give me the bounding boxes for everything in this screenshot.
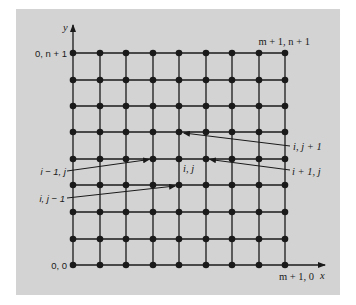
grid-node (203, 236, 210, 243)
grid-node (229, 50, 236, 57)
grid-node (229, 77, 236, 84)
grid-node (282, 209, 289, 216)
arrow-to-i-j-plus-1 (184, 133, 290, 146)
grid-node (176, 129, 183, 136)
grid-node (229, 103, 236, 110)
grid-node (123, 209, 130, 216)
grid-node (176, 77, 183, 84)
grid-node (256, 209, 263, 216)
grid-node (123, 182, 130, 189)
grid-node (256, 103, 263, 110)
grid-node (176, 262, 183, 269)
grid-node (176, 236, 183, 243)
grid-node (97, 156, 104, 163)
grid-node (282, 156, 289, 163)
grid-node (176, 182, 183, 189)
grid-node (282, 77, 289, 84)
grid-node (203, 77, 210, 84)
grid-node (256, 182, 263, 189)
grid-node (70, 182, 77, 189)
grid-node (150, 182, 157, 189)
grid-node (150, 236, 157, 243)
grid-node (282, 262, 289, 269)
grid-node (123, 77, 130, 84)
y-axis-label: y (62, 22, 68, 33)
grid-node (203, 103, 210, 110)
grid-node (123, 262, 130, 269)
grid-node (97, 209, 104, 216)
grid-node (176, 156, 183, 163)
grid-node (97, 262, 104, 269)
grid-node (229, 262, 236, 269)
grid-node (70, 103, 77, 110)
grid-node (97, 77, 104, 84)
grid-node (150, 129, 157, 136)
grid-node (70, 156, 77, 163)
grid-node (97, 50, 104, 57)
grid-node (256, 236, 263, 243)
grid-node (203, 262, 210, 269)
corner-label-top-left: 0, n + 1 (35, 48, 67, 59)
grid-node (150, 50, 157, 57)
x-axis-label: x (319, 270, 325, 281)
grid-node (123, 156, 130, 163)
node-label-left: i − 1, j (40, 166, 66, 177)
grid-node (176, 50, 183, 57)
grid-node (282, 103, 289, 110)
arrow-to-i-plus-1-j (210, 160, 290, 171)
grid-node (70, 50, 77, 57)
grid-node (282, 50, 289, 57)
grid-node (229, 156, 236, 163)
grid-node (123, 236, 130, 243)
grid-node (203, 50, 210, 57)
grid-node (256, 156, 263, 163)
corner-label-top-right: m + 1, n + 1 (258, 36, 310, 47)
grid-node (70, 129, 77, 136)
grid-node (70, 236, 77, 243)
grid-node (150, 209, 157, 216)
grid-node (256, 262, 263, 269)
grid-node (256, 50, 263, 57)
grid-node (229, 129, 236, 136)
grid-node (176, 103, 183, 110)
arrow-to-i-j-minus-1 (67, 186, 175, 198)
grid-node (150, 262, 157, 269)
grid-node (70, 262, 77, 269)
node-label-up: i, j + 1 (293, 141, 322, 152)
grid-node (70, 209, 77, 216)
node-label-down: i, j − 1 (39, 193, 65, 204)
grid-node (123, 50, 130, 57)
grid-node (203, 129, 210, 136)
arrow-to-i-minus-1-j (67, 160, 149, 172)
grid-node (229, 236, 236, 243)
grid-node (97, 129, 104, 136)
grid-node (256, 77, 263, 84)
node-label-right: i + 1, j (292, 166, 321, 177)
grid-node (150, 77, 157, 84)
grid-node (282, 182, 289, 189)
grid-node (150, 156, 157, 163)
node-label-center: i, j (183, 163, 194, 174)
corner-label-bottom-left: 0, 0 (51, 260, 67, 271)
grid-node (203, 156, 210, 163)
grid-node (229, 209, 236, 216)
grid-node (176, 209, 183, 216)
grid-node (123, 103, 130, 110)
grid-diagram: y x 0, n + 1 m + 1, n + 1 0, 0 m + 1, 0 … (0, 0, 356, 305)
grid-node (229, 182, 236, 189)
grid-node (282, 129, 289, 136)
grid-node (97, 103, 104, 110)
grid-node (70, 77, 77, 84)
grid-node (150, 103, 157, 110)
grid-node (203, 209, 210, 216)
corner-label-bottom-right: m + 1, 0 (279, 271, 314, 282)
grid-node (203, 182, 210, 189)
grid-node (256, 129, 263, 136)
grid-node (282, 236, 289, 243)
grid-node (97, 182, 104, 189)
grid-node (97, 236, 104, 243)
grid-node (123, 129, 130, 136)
